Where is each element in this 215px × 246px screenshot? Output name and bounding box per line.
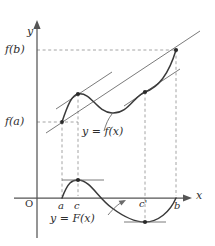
curve-label-F-of-x: y = F(x): [50, 213, 95, 224]
tick-label-a: a: [58, 201, 64, 211]
point-a-fa: [60, 120, 64, 124]
f-of-a-label: f(a): [5, 116, 24, 127]
tick-label-c-prime: c': [139, 199, 147, 209]
tick-label-b: b: [174, 201, 180, 211]
f-of-b-label: f(b): [5, 44, 25, 55]
point-b-fb: [174, 48, 178, 52]
secant-line: [46, 31, 200, 133]
tangent-line-at-c-prime: [124, 69, 180, 106]
mvt-figure: y x O f(b) f(a) a c c' b y = f(x) y = F(…: [0, 0, 215, 246]
y-axis-arrowhead: [33, 20, 40, 29]
leader-arrowhead-F-label: [119, 200, 126, 206]
x-axis-label: x: [196, 190, 202, 201]
point-c-fc: [76, 92, 80, 96]
y-axis-label: y: [27, 26, 33, 37]
tick-label-c: c: [74, 201, 80, 211]
x-axis-arrowhead: [183, 194, 192, 201]
tangent-line-at-c: [56, 72, 112, 109]
point-F-max: [76, 178, 80, 182]
point-c-prime-fc-prime: [143, 90, 147, 94]
origin-label: O: [25, 199, 33, 209]
curve-label-f-of-x: y = f(x): [82, 126, 123, 137]
point-F-min: [143, 220, 147, 224]
